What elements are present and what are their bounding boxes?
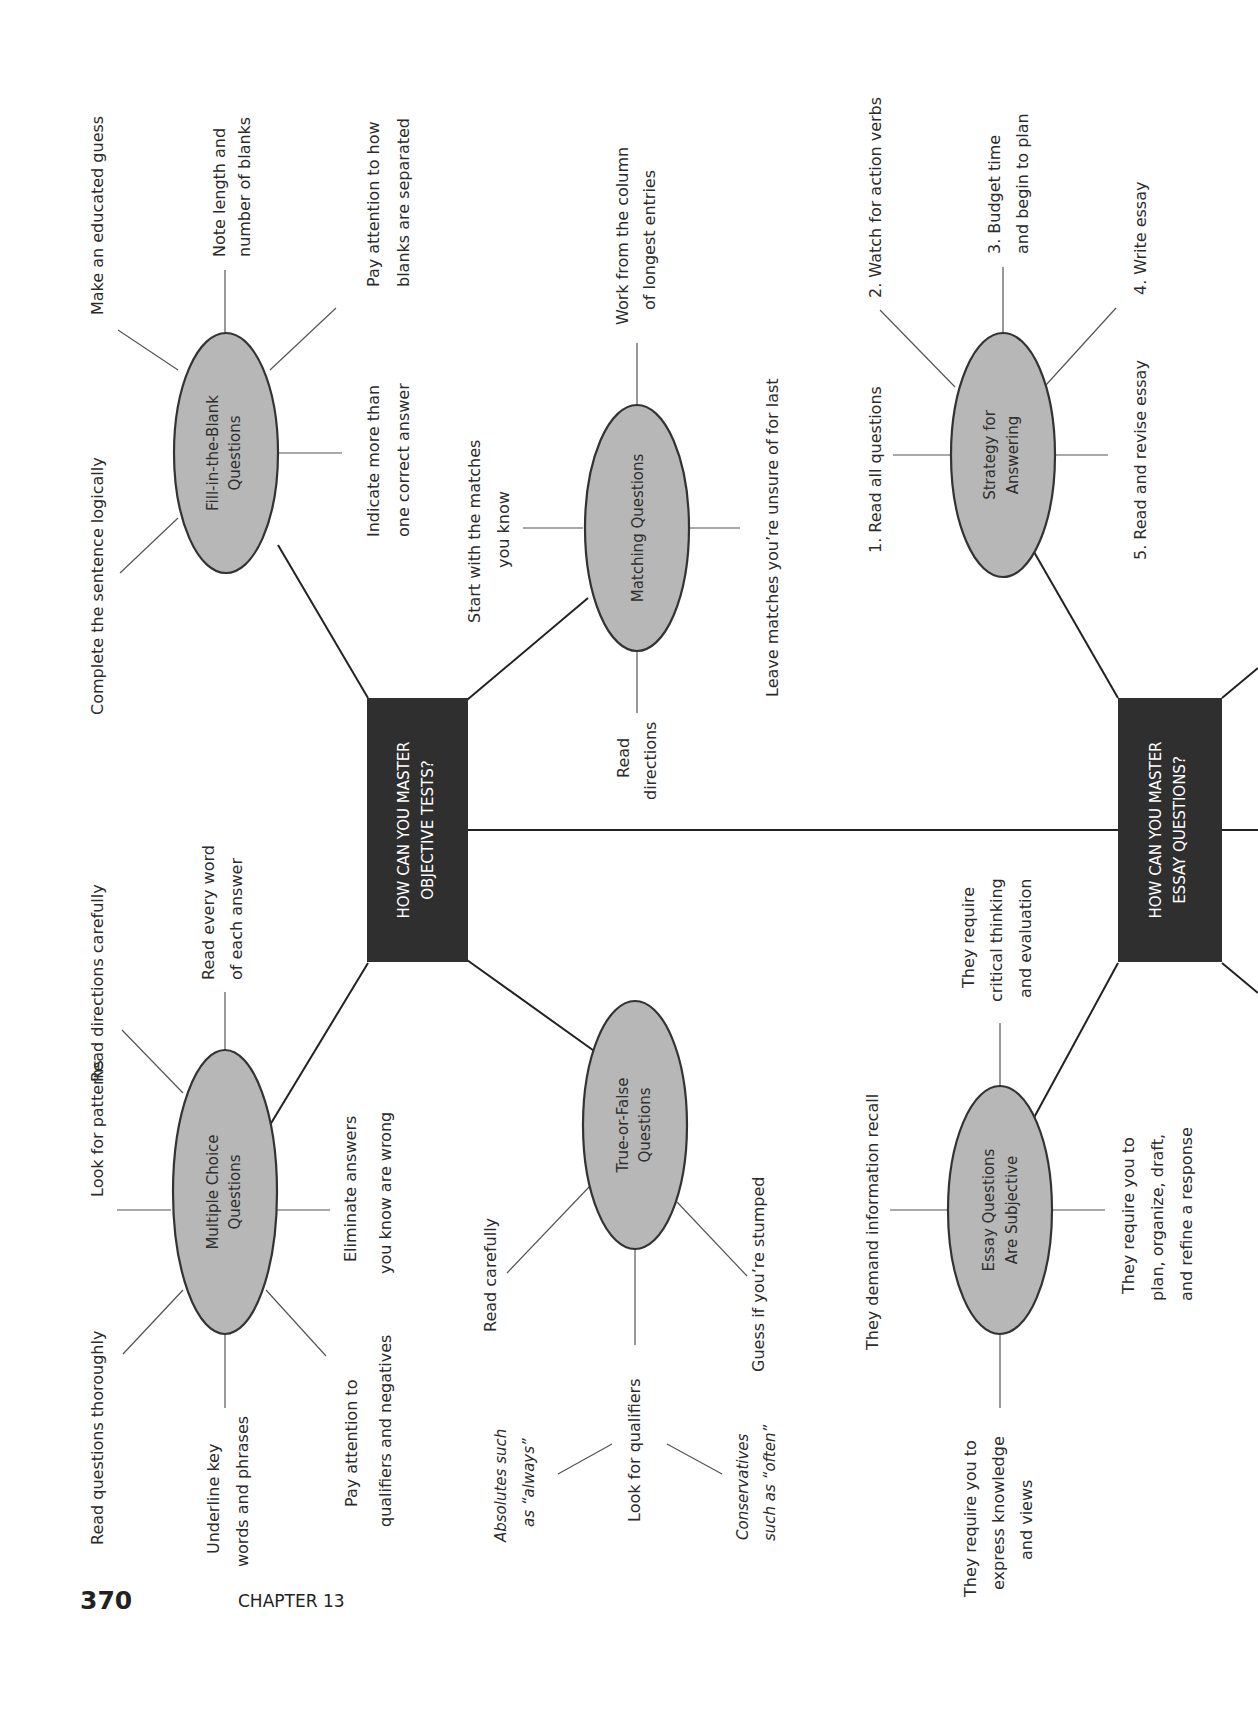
leaf-eliminate-answers-1: Eliminate answers (341, 1116, 360, 1262)
leaf-express-knowledge-3: and views (1017, 1480, 1036, 1560)
leaf-strategy-step-1: 1. Read all questions (866, 386, 885, 553)
leaf-read-questions-thoroughly: Read questions thoroughly (88, 1331, 107, 1545)
leaf-work-from-column-2: of longest entries (640, 170, 659, 310)
leaf-start-with-matches-1: Start with the matches (465, 440, 484, 623)
leaf-express-knowledge-2: express knowledge (989, 1436, 1008, 1590)
leaf-plan-organize-1: They require you to (1119, 1137, 1138, 1295)
leaf-read-directions-2: directions (641, 722, 660, 800)
fill-in-blank-label-1: Fill-in-the-Blank (204, 395, 222, 511)
multiple-choice-label-1: Multiple Choice (204, 1134, 222, 1249)
leaf-pay-attention-blanks-2: blanks are separated (394, 118, 413, 287)
node-strategy-for-answering: Strategy for Answering 1. Read all quest… (866, 97, 1150, 577)
leaf-underline-key-1: Underline key (204, 1444, 223, 1554)
leaf-look-for-qualifiers: Look for qualifiers (625, 1379, 644, 1522)
hub-objective-tests: HOW CAN YOU MASTER OBJECTIVE TESTS? (367, 698, 468, 962)
strategy-label-2: Answering (1004, 416, 1022, 494)
mind-map-diagram: HOW CAN YOU MASTER OBJECTIVE TESTS? HOW … (0, 0, 1258, 1716)
leaf-critical-thinking-3: and evaluation (1016, 879, 1035, 998)
leaf-indicate-more-1: Indicate more than (364, 385, 383, 537)
leaf-complete-sentence: Complete the sentence logically (88, 457, 107, 715)
leaf-read-directions-carefully: Read directions carefully (88, 884, 107, 1082)
leaf-pay-attention-qualifiers-1: Pay attention to (342, 1380, 361, 1507)
node-essay-subjective: Essay Questions Are Subjective They dema… (863, 878, 1196, 1598)
leaf-demand-recall: They demand information recall (863, 1094, 882, 1351)
subleaf-conservatives-1: Conservatives (734, 1433, 752, 1540)
node-multiple-choice: Multiple Choice Questions Read questions… (88, 845, 395, 1567)
multiple-choice-label-2: Questions (226, 1154, 244, 1229)
leaf-strategy-step-2: 2. Watch for action verbs (866, 97, 885, 298)
fill-in-blank-label-2: Questions (226, 415, 244, 490)
hub-essay-line2: ESSAY QUESTIONS? (1171, 756, 1189, 904)
leaf-read-directions-1: Read (614, 738, 633, 778)
leaf-strategy-step-3-1: 3. Budget time (985, 135, 1004, 254)
strategy-label-1: Strategy for (981, 409, 999, 499)
leaf-plan-organize-2: plan, organize, draft, (1148, 1134, 1167, 1301)
leaf-read-every-word-1: Read every word (199, 845, 218, 980)
node-true-false: True-or-False Questions Read carefully L… (481, 1001, 779, 1543)
node-matching-questions: Matching Questions Start with the matche… (465, 147, 782, 800)
leaf-strategy-step-5: 5. Read and revise essay (1131, 360, 1150, 560)
hub-essay-line1: HOW CAN YOU MASTER (1147, 741, 1165, 918)
leaf-critical-thinking-1: They require (959, 887, 978, 989)
leaf-note-length-1: Note length and (210, 128, 229, 257)
page-number: 370 (80, 1586, 132, 1615)
leaf-educated-guess: Make an educated guess (88, 116, 107, 315)
leaf-underline-key-2: words and phrases (233, 1416, 252, 1567)
leaf-critical-thinking-2: critical thinking (987, 878, 1006, 1002)
hub-essay-questions: HOW CAN YOU MASTER ESSAY QUESTIONS? (1118, 698, 1222, 962)
matching-label: Matching Questions (629, 453, 647, 602)
leaf-express-knowledge-1: They require you to (961, 1440, 980, 1598)
leaf-strategy-step-4: 4. Write essay (1131, 182, 1150, 295)
leaf-start-with-matches-2: you know (494, 491, 513, 568)
subleaf-absolutes-1: Absolutes such (492, 1429, 510, 1543)
leaf-eliminate-answers-2: you know are wrong (376, 1112, 395, 1274)
leaf-pay-attention-blanks-1: Pay attention to how (364, 121, 383, 287)
leaf-note-length-2: number of blanks (235, 117, 254, 257)
leaf-plan-organize-3: and refine a response (1177, 1127, 1196, 1301)
hub-objective-line2: OBJECTIVE TESTS? (419, 760, 437, 899)
true-false-label-2: Questions (636, 1087, 654, 1162)
leaf-guess-if-stumped: Guess if you’re stumped (749, 1177, 768, 1372)
true-false-label-1: True-or-False (614, 1077, 632, 1173)
essay-subjective-label-2: Are Subjective (1003, 1156, 1021, 1264)
chapter-label: CHAPTER 13 (238, 1591, 345, 1611)
leaf-read-every-word-2: of each answer (227, 858, 246, 980)
hub-objective-line1: HOW CAN YOU MASTER (395, 741, 413, 918)
leaf-indicate-more-2: one correct answer (394, 383, 413, 537)
subleaf-conservatives-2: such as “often” (761, 1425, 779, 1541)
leaf-strategy-step-3-2: and begin to plan (1013, 113, 1032, 254)
subleaf-absolutes-2: as “always” (520, 1438, 538, 1527)
leaf-read-carefully: Read carefully (481, 1218, 500, 1332)
essay-subjective-label-1: Essay Questions (980, 1148, 998, 1271)
leaf-pay-attention-qualifiers-2: qualifiers and negatives (376, 1335, 395, 1527)
leaf-leave-matches: Leave matches you’re unsure of for last (763, 378, 782, 697)
node-fill-in-the-blank: Fill-in-the-Blank Questions Complete the… (88, 116, 413, 715)
leaf-work-from-column-1: Work from the column (613, 147, 632, 325)
